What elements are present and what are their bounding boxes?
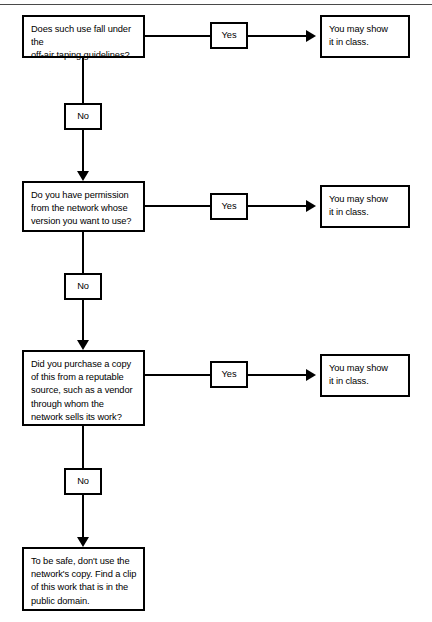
question-box-1-text: Does such use fall under the off-air tap… xyxy=(24,17,143,63)
flowchart-canvas: Does such use fall under the off-air tap… xyxy=(0,0,432,622)
connector-no1-to-q2 xyxy=(82,130,84,172)
final-outcome-box-text: To be safe, don't use the network's copy… xyxy=(24,549,143,608)
no-label-box-1[interactable]: No xyxy=(64,103,102,130)
no-label-box-2-text: No xyxy=(77,281,89,292)
outcome-box-3-text: You may show it in class. xyxy=(322,356,408,388)
connector-yes3-to-outcome3 xyxy=(248,374,306,376)
outcome-box-1[interactable]: You may show it in class. xyxy=(320,15,410,58)
outcome-box-1-text: You may show it in class. xyxy=(322,17,408,49)
yes-label-box-1[interactable]: Yes xyxy=(210,22,248,49)
connector-q3-to-yes3 xyxy=(145,374,210,376)
outcome-box-2-text: You may show it in class. xyxy=(322,187,408,219)
yes-label-box-3-text: Yes xyxy=(222,369,237,380)
connector-no2-to-q3 xyxy=(82,300,84,341)
final-outcome-box[interactable]: To be safe, don't use the network's copy… xyxy=(22,547,145,611)
no-label-box-3-text: No xyxy=(77,476,89,487)
question-box-2-text: Do you have permission from the network … xyxy=(24,183,143,229)
arrowhead-right-1 xyxy=(306,30,316,42)
connector-q2-to-yes2 xyxy=(145,205,210,207)
arrowhead-right-2 xyxy=(306,200,316,212)
no-label-box-1-text: No xyxy=(77,111,89,122)
outcome-box-2[interactable]: You may show it in class. xyxy=(320,185,410,228)
arrowhead-down-1 xyxy=(77,171,89,181)
question-box-1[interactable]: Does such use fall under the off-air tap… xyxy=(22,15,145,58)
connector-no3-to-final xyxy=(82,495,84,539)
no-label-box-2[interactable]: No xyxy=(64,273,102,300)
question-box-2[interactable]: Do you have permission from the network … xyxy=(22,181,145,232)
connector-q3-to-no3 xyxy=(82,426,84,468)
outcome-box-3[interactable]: You may show it in class. xyxy=(320,354,410,397)
yes-label-box-3[interactable]: Yes xyxy=(210,361,248,388)
question-box-3[interactable]: Did you purchase a copy of this from a r… xyxy=(22,350,145,426)
connector-q1-to-no1 xyxy=(82,58,84,103)
yes-label-box-2-text: Yes xyxy=(222,201,237,212)
connector-yes1-to-outcome1 xyxy=(248,35,306,37)
connector-q2-to-no2 xyxy=(82,232,84,273)
yes-label-box-2[interactable]: Yes xyxy=(210,193,248,220)
connector-q1-to-yes1 xyxy=(145,35,210,37)
yes-label-box-1-text: Yes xyxy=(222,30,237,41)
no-label-box-3[interactable]: No xyxy=(64,468,102,495)
connector-yes2-to-outcome2 xyxy=(248,205,306,207)
top-divider-rule xyxy=(0,4,432,5)
arrowhead-down-2 xyxy=(77,340,89,350)
question-box-3-text: Did you purchase a copy of this from a r… xyxy=(24,352,143,424)
arrowhead-down-3 xyxy=(77,537,89,547)
arrowhead-right-3 xyxy=(306,369,316,381)
